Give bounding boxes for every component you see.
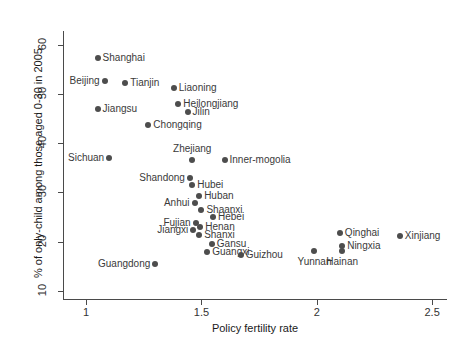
data-point: [189, 157, 195, 163]
data-point: [238, 252, 244, 258]
x-tick-label: 2.5: [417, 306, 447, 318]
data-point-label: Jilin: [193, 107, 210, 117]
data-point-label: Xinjiang: [405, 231, 441, 241]
data-point-label: Guizhou: [246, 250, 283, 260]
data-point-label: Zhejiang: [173, 144, 211, 154]
data-point: [102, 78, 108, 84]
data-point-label: Tianjin: [130, 78, 159, 88]
data-point: [171, 85, 177, 91]
data-point-label: Jiangsu: [103, 104, 137, 114]
data-point-label: Liaoning: [179, 83, 217, 93]
data-point-label: Inner-mogolia: [230, 155, 291, 165]
x-axis-line: [63, 299, 447, 300]
x-axis-title: Policy fertility rate: [63, 322, 447, 334]
data-point: [106, 155, 112, 161]
data-point: [95, 106, 101, 112]
x-tick-mark: [432, 300, 433, 305]
scatter-plot-figure: 102030405060 11.522.5 % of only-child am…: [0, 0, 458, 348]
x-tick-mark: [317, 300, 318, 305]
data-point-label: Ningxia: [347, 241, 380, 251]
data-point: [192, 200, 198, 206]
y-axis-title: % of only-child among those aged 0-30 in…: [32, 23, 44, 303]
data-point-label: Guangdong: [98, 259, 150, 269]
data-point-label: Beijing: [69, 76, 99, 86]
data-point-label: Jiangxi: [157, 225, 188, 235]
data-point-label: Yunnan: [298, 257, 332, 267]
x-tick-mark: [201, 300, 202, 305]
x-tick-mark: [86, 300, 87, 305]
data-point: [122, 80, 128, 86]
data-point-label: Hubei: [197, 180, 223, 190]
data-point: [210, 214, 216, 220]
data-point: [222, 157, 228, 163]
data-point: [95, 55, 101, 61]
data-point-label: Shanghai: [103, 53, 145, 63]
data-point-label: Guangxi: [212, 247, 249, 257]
data-point: [185, 109, 191, 115]
data-point-label: Sichuan: [68, 153, 104, 163]
data-point-label: Chongqing: [153, 120, 201, 130]
x-tick-label: 2: [302, 306, 332, 318]
data-point: [337, 230, 343, 236]
x-tick-label: 1: [71, 306, 101, 318]
data-point: [397, 233, 403, 239]
x-tick-label: 1.5: [186, 306, 216, 318]
data-point: [152, 261, 158, 267]
data-point-label: Huban: [204, 191, 233, 201]
data-point-label: Qinghai: [345, 228, 379, 238]
data-point-label: Shandong: [139, 173, 185, 183]
data-point: [187, 175, 193, 181]
data-point-label: Anhui: [164, 198, 190, 208]
